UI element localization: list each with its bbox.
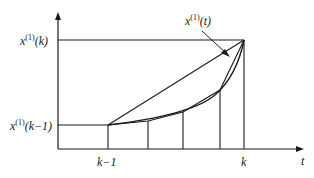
label-curve: x(1)(t) <box>184 13 211 28</box>
x-axis-arrow-icon <box>296 146 304 152</box>
label-k-minus-1: k−1 <box>97 155 116 169</box>
label-k: k <box>241 155 247 169</box>
label-t: t <box>301 154 305 168</box>
annotation-arrow-line <box>202 31 227 54</box>
diagram-canvas: x(1)(k) x(1)(k−1) x(1)(t) k−1 k t <box>0 0 314 178</box>
label-y-top: x(1)(k) <box>19 33 48 48</box>
y-axis-arrow-icon <box>55 12 61 20</box>
label-y-bottom: x(1)(k−1) <box>9 118 52 133</box>
